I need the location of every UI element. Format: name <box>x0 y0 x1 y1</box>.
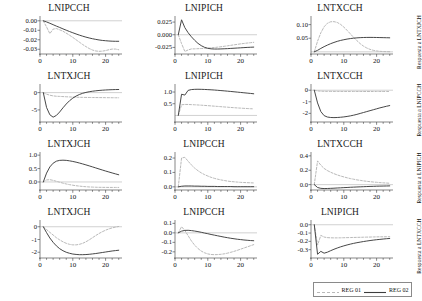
series-reg-01 <box>178 157 253 187</box>
y-tick-label: -0.2 <box>268 237 308 244</box>
series-reg-02 <box>314 185 389 189</box>
x-tick-label: 10 <box>63 193 83 201</box>
x-tick-label: 10 <box>198 125 218 133</box>
x-tick-label: 20 <box>96 125 116 133</box>
y-tick-label: 0.025 <box>132 18 172 25</box>
irf-panel-r2c3: LNTXCCH0-1-201020 <box>281 72 399 136</box>
x-tick-label: 20 <box>96 57 116 65</box>
x-tick-label: 0 <box>165 193 185 201</box>
y-tick-label: 0.0 <box>132 229 172 236</box>
y-tick-label: 0.1 <box>132 168 172 175</box>
y-tick-label: 0.2 <box>132 154 172 161</box>
irf-panel-r1c1: LNIPCCH0.00-0.01-0.02-0.0301020 <box>10 4 128 68</box>
y-tick-label: -1 <box>0 236 37 243</box>
x-tick-label: 0 <box>30 125 50 133</box>
y-tick-label: 1.0 <box>0 151 37 158</box>
y-tick-label: -0.3 <box>268 246 308 253</box>
y-tick-label: 0.0 <box>0 178 37 185</box>
y-tick-label: 0.0 <box>132 183 172 190</box>
x-tick-label: 0 <box>301 125 321 133</box>
y-tick-label: 0 <box>0 223 37 230</box>
series-reg-01 <box>43 226 118 244</box>
x-tick-label: 0 <box>301 57 321 65</box>
x-tick-label: 20 <box>367 57 387 65</box>
legend-key-reg02 <box>364 281 386 299</box>
x-tick-label: 20 <box>367 193 387 201</box>
x-tick-label: 10 <box>334 125 354 133</box>
x-tick-label: 20 <box>96 261 116 269</box>
row-label-2: Respuesta a LNIPICH <box>416 146 422 210</box>
y-tick-label: -2 <box>268 109 308 116</box>
x-tick-label: 10 <box>198 57 218 65</box>
y-tick-label: 0.0 <box>268 221 308 228</box>
x-tick-label: 20 <box>367 261 387 269</box>
y-tick-label: -0.2 <box>132 248 172 255</box>
y-tick-label: 0.1 <box>132 219 172 226</box>
row-label-1: Respuesta a LNIPCCH <box>416 78 422 142</box>
series-reg-01 <box>43 93 118 98</box>
y-tick-label: 0 <box>268 86 308 93</box>
y-tick-label: -1 <box>268 98 308 105</box>
irf-panel-r1c3: LNTXCCH0.100.0501020 <box>281 4 399 68</box>
x-tick-label: 20 <box>231 125 251 133</box>
x-tick-label: 20 <box>231 57 251 65</box>
irf-panel-r3c3: LNTXCCH0.40.20.001020 <box>281 140 399 204</box>
y-tick-label: 0.00 <box>0 17 37 24</box>
y-tick-label: 0.4 <box>268 152 308 159</box>
y-tick-label: -0.1 <box>132 238 172 245</box>
y-tick-label: -0.02 <box>0 36 37 43</box>
series-reg-01 <box>314 161 389 185</box>
legend-key-reg01 <box>317 281 339 299</box>
series-reg-01 <box>314 225 389 245</box>
irf-panel-r2c1: LNTXJCH0-501020 <box>10 72 128 136</box>
x-tick-label: 10 <box>198 193 218 201</box>
irf-panel-r1c2: LNIPICH0.0250.000-0.02501020 <box>145 4 263 68</box>
x-tick-label: 10 <box>198 261 218 269</box>
row-label-0: Respuesta a LNTXJCH <box>416 10 422 74</box>
y-tick-label: 0.05 <box>268 34 308 41</box>
irf-panel-r3c1: LNTXJCH1.00.50.001020 <box>10 140 128 204</box>
x-tick-label: 0 <box>30 57 50 65</box>
legend: REG 01 REG 02 <box>313 282 412 297</box>
irf-panel-r4c3: LNIPICH0.0-0.1-0.2-0.301020 <box>281 208 399 272</box>
y-tick-label: 0.0 <box>268 181 308 188</box>
x-tick-label: 0 <box>301 193 321 201</box>
x-tick-label: 10 <box>63 57 83 65</box>
series-reg-02 <box>178 230 253 240</box>
x-tick-label: 0 <box>301 261 321 269</box>
series-reg-02 <box>43 90 118 118</box>
series-reg-02 <box>43 227 118 255</box>
y-tick-label: -2 <box>0 248 37 255</box>
row-label-3: Respuesta a LNTXCCH <box>416 214 422 278</box>
series-reg-02 <box>314 90 389 117</box>
x-tick-label: 20 <box>231 261 251 269</box>
legend-label-reg02: REG 02 <box>389 287 409 293</box>
x-tick-label: 20 <box>96 193 116 201</box>
y-tick-label: -5 <box>0 106 37 113</box>
y-tick-label: -0.03 <box>0 45 37 52</box>
x-tick-label: 10 <box>334 193 354 201</box>
irf-panel-r2c2: LNIPICH1.00.501020 <box>145 72 263 136</box>
y-tick-label: 0.5 <box>132 100 172 107</box>
y-tick-label: 0.5 <box>0 165 37 172</box>
irf-panel-r4c2: LNIPCCH0.10.0-0.1-0.201020 <box>145 208 263 272</box>
y-tick-label: -0.1 <box>268 229 308 236</box>
y-tick-label: -0.01 <box>0 26 37 33</box>
legend-label-reg01: REG 01 <box>342 287 362 293</box>
y-tick-label: 0.000 <box>132 31 172 38</box>
y-tick-label: 0.2 <box>268 166 308 173</box>
x-tick-label: 10 <box>63 125 83 133</box>
series-reg-02 <box>314 225 389 255</box>
irf-panel-r4c1: LNTXJCH0-1-201020 <box>10 208 128 272</box>
x-tick-label: 10 <box>63 261 83 269</box>
y-tick-label: 1.0 <box>132 88 172 95</box>
series-reg-01 <box>43 180 118 188</box>
x-tick-label: 0 <box>30 193 50 201</box>
y-tick-label: -0.025 <box>132 43 172 50</box>
x-tick-label: 10 <box>334 57 354 65</box>
y-tick-label: 0 <box>0 89 37 96</box>
y-tick-label: 0.10 <box>268 21 308 28</box>
x-tick-label: 0 <box>30 261 50 269</box>
x-tick-label: 0 <box>165 125 185 133</box>
